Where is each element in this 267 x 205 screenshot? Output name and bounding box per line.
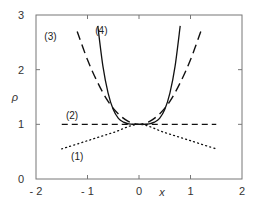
plot-frame (36, 15, 242, 179)
curve-label: (3) (44, 31, 56, 42)
x-tick-label: 1 (187, 185, 193, 197)
y-tick-label: 0 (18, 173, 24, 185)
x-tick-label: - 2 (30, 185, 43, 197)
chart: - 2- 10120123 (1)(2)(3)(4) x ρ (0, 0, 267, 205)
y-tick-label: 2 (18, 64, 24, 76)
x-axis-label: x (158, 186, 165, 198)
curve-label: (4) (95, 25, 107, 36)
series-line-1 (62, 124, 217, 149)
x-tick-label: - 1 (81, 185, 94, 197)
curve-label: (1) (71, 151, 83, 162)
y-tick-label: 1 (18, 118, 24, 130)
y-tick-label: 3 (18, 9, 24, 21)
x-tick-label: 2 (239, 185, 245, 197)
series-line-3 (77, 31, 201, 124)
series-line-4 (98, 26, 180, 124)
curve-label: (2) (66, 110, 78, 121)
x-tick-label: 0 (136, 185, 142, 197)
y-axis-label: ρ (11, 91, 18, 103)
